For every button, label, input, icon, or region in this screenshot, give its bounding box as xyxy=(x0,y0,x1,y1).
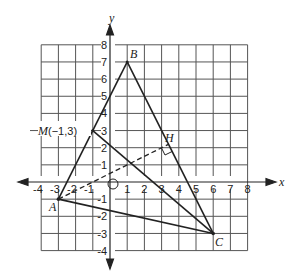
svg-text:-4: -4 xyxy=(97,245,107,257)
svg-text:-1: -1 xyxy=(84,183,94,195)
svg-text:5: 5 xyxy=(101,90,107,102)
svg-text:-3: -3 xyxy=(97,228,107,240)
y-axis-up-arrow-icon xyxy=(107,25,114,35)
x-axis-left-arrow-icon xyxy=(18,179,28,186)
svg-text:1: 1 xyxy=(124,183,130,195)
svg-text:6: 6 xyxy=(210,183,216,195)
x-axis-right-arrow-icon xyxy=(266,179,276,186)
point-label-a: A xyxy=(48,200,57,214)
svg-text:1: 1 xyxy=(101,159,107,171)
svg-text:-2: -2 xyxy=(67,183,77,195)
point-label-b: B xyxy=(130,47,138,61)
svg-text:8: 8 xyxy=(101,39,107,51)
point-label-m-coords: (−1,3) xyxy=(48,125,77,137)
point-label-c: C xyxy=(215,235,224,249)
grid xyxy=(41,45,247,251)
x-axis-label: x xyxy=(278,175,285,189)
y-axis-down-arrow-icon xyxy=(107,259,114,269)
point-label-m: M(−1,3) xyxy=(37,124,77,138)
axis-label-knockouts xyxy=(36,38,240,254)
svg-text:4: 4 xyxy=(176,183,182,195)
svg-text:7: 7 xyxy=(101,56,107,68)
svg-text:3: 3 xyxy=(101,125,107,137)
coordinate-diagram: x y -4 -3 -2 -1 1 2 3 4 5 6 7 8 8 7 6 5 … xyxy=(0,0,298,279)
point-label-h: H xyxy=(164,131,175,145)
svg-text:8: 8 xyxy=(245,183,251,195)
svg-text:-2: -2 xyxy=(97,210,107,222)
svg-text:-3: -3 xyxy=(50,183,60,195)
svg-text:2: 2 xyxy=(101,142,107,154)
svg-text:-4: -4 xyxy=(33,183,43,195)
svg-text:7: 7 xyxy=(227,183,233,195)
svg-text:2: 2 xyxy=(141,183,147,195)
y-axis-label: y xyxy=(108,11,115,25)
svg-text:-1: -1 xyxy=(97,193,107,205)
svg-text:6: 6 xyxy=(101,73,107,85)
